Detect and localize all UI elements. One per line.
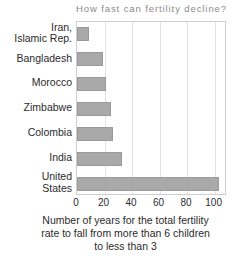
x-axis-tick-labels: 020406080100 bbox=[0, 197, 251, 211]
y-axis-label: Colombia bbox=[0, 127, 72, 139]
bar-row bbox=[77, 97, 225, 122]
bar-row bbox=[77, 47, 225, 72]
y-axis-label: UnitedStates bbox=[0, 171, 72, 194]
y-axis-label: Iran,Islamic Rep. bbox=[0, 22, 72, 45]
y-axis-label-line: Islamic Rep. bbox=[0, 33, 72, 45]
y-axis-label: India bbox=[0, 152, 72, 164]
x-tick-label-20: 20 bbox=[98, 197, 109, 208]
bar bbox=[77, 77, 106, 91]
y-axis-label-line: Colombia bbox=[0, 127, 72, 139]
y-axis-label-line: United bbox=[0, 171, 72, 183]
y-axis-label-line: Bangladesh bbox=[0, 53, 72, 65]
bar bbox=[77, 102, 111, 116]
bar bbox=[77, 52, 103, 66]
bar-row bbox=[77, 121, 225, 146]
y-axis-label-line: India bbox=[0, 152, 72, 164]
plot-area bbox=[76, 21, 226, 195]
y-axis-label-line: Morocco bbox=[0, 77, 72, 89]
x-tick-label-100: 100 bbox=[205, 197, 222, 208]
bar-row bbox=[77, 72, 225, 97]
bar-row bbox=[77, 146, 225, 171]
y-axis-label-line: States bbox=[0, 183, 72, 195]
caption-line-3: to less than 3 bbox=[10, 240, 241, 253]
bar-series bbox=[77, 22, 225, 194]
x-tick-label-80: 80 bbox=[181, 197, 192, 208]
bar bbox=[77, 27, 89, 41]
y-axis-label: Bangladesh bbox=[0, 53, 72, 65]
y-axis-label: Morocco bbox=[0, 77, 72, 89]
y-axis-label: Zimbabwe bbox=[0, 102, 72, 114]
bar-row bbox=[77, 171, 225, 196]
x-tick-label-60: 60 bbox=[153, 197, 164, 208]
chart-title: How fast can fertility decline? bbox=[76, 3, 226, 14]
y-axis-label-line: Zimbabwe bbox=[0, 102, 72, 114]
caption-line-2: rate to fall from more than 6 children bbox=[10, 227, 241, 240]
fertility-decline-bar-chart: How fast can fertility decline? Iran,Isl… bbox=[0, 0, 251, 265]
bar bbox=[77, 127, 113, 141]
bar-row bbox=[77, 22, 225, 47]
bar bbox=[77, 177, 219, 191]
x-tick-label-0: 0 bbox=[73, 197, 79, 208]
x-axis-caption: Number of years for the total fertility … bbox=[10, 214, 241, 253]
bar bbox=[77, 152, 122, 166]
x-tick-label-40: 40 bbox=[125, 197, 136, 208]
caption-line-1: Number of years for the total fertility bbox=[10, 214, 241, 227]
y-axis-category-labels: Iran,Islamic Rep.BangladeshMoroccoZimbab… bbox=[0, 21, 72, 195]
